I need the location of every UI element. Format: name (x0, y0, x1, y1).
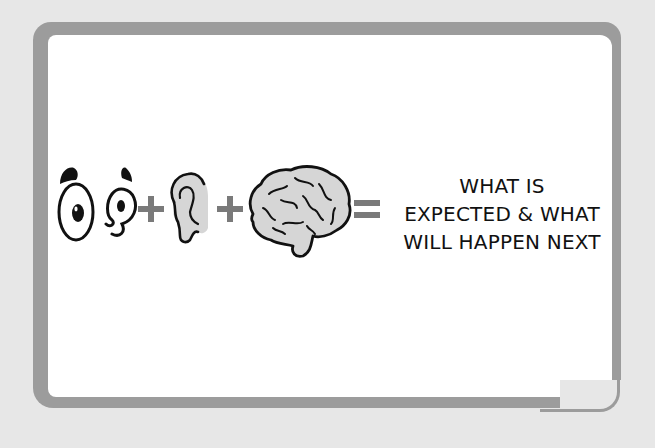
caption-line-3: WILL HAPPEN NEXT (382, 228, 622, 256)
plus-icon (138, 196, 164, 222)
result-caption: WHAT IS EXPECTED & WHAT WILL HAPPEN NEXT (382, 172, 622, 256)
frame-peeled-corner (540, 360, 620, 412)
caption-line-1: WHAT IS (382, 172, 622, 200)
caption-line-2: EXPECTED & WHAT (382, 200, 622, 228)
brain-icon (247, 164, 353, 260)
plus-icon (217, 196, 243, 222)
equals-icon (354, 200, 380, 220)
eyes-icon (54, 162, 138, 250)
ear-icon (166, 172, 212, 244)
